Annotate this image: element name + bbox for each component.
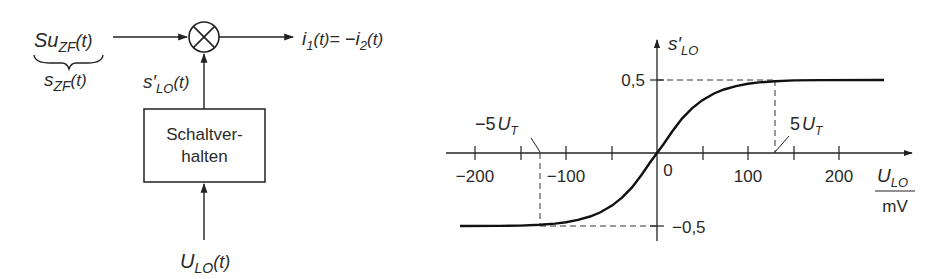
- block-label-line1: Schaltver-: [166, 125, 243, 144]
- x-axis-label-numerator: ULO: [877, 165, 908, 190]
- y-tick-pos: 0,5: [621, 71, 645, 90]
- input-signal-label: SuZF(t): [34, 29, 93, 55]
- y-tick-neg: −0,5: [672, 218, 706, 237]
- svg-text:200: 200: [825, 167, 853, 186]
- figure-canvas: SuZF(t) sZF(t) i1(t)= −i2(t) s′LO(t) Sch…: [0, 0, 944, 279]
- underbrace: [34, 55, 103, 69]
- switching-behavior-block: [144, 109, 265, 182]
- annotation-leader-neg: [531, 138, 540, 152]
- svg-text:−200: −200: [456, 167, 494, 186]
- block-label-line2: halten: [181, 147, 227, 166]
- x-axis-label-denominator: mV: [882, 197, 908, 216]
- x-tick-labels: −200 −100 0 100 200: [456, 161, 853, 186]
- tanh-chart: −200 −100 0 100 200 0,5 −0,5 s′LO ULO mV…: [446, 33, 915, 241]
- output-signal-label: i1(t)= −i2(t): [302, 28, 383, 53]
- y-axis-label: s′LO: [668, 33, 698, 58]
- ulo-input-label: ULO(t): [180, 250, 230, 276]
- svg-text:−100: −100: [547, 167, 585, 186]
- annotation-leader-pos: [775, 136, 789, 152]
- svg-text:0: 0: [663, 161, 672, 180]
- lo-signal-label: s′LO(t): [143, 71, 189, 96]
- input-brace-label: sZF(t): [44, 69, 87, 94]
- annotation-pos-5ut: 5UT: [790, 114, 824, 138]
- multiplier-icon: [189, 22, 219, 52]
- annotation-neg-5ut: −5UT: [475, 114, 520, 138]
- block-diagram: SuZF(t) sZF(t) i1(t)= −i2(t) s′LO(t) Sch…: [34, 22, 383, 276]
- svg-text:100: 100: [734, 167, 762, 186]
